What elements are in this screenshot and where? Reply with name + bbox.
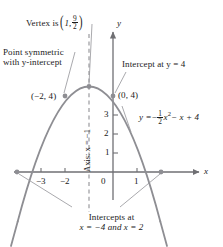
vertex-prefix: Vertex is [26,18,59,28]
equation-fraction: 12 [157,110,163,126]
bottom-caption-line2: x = −4 and x = 2 [0,222,223,232]
vertex-frac-denominator: 2 [72,22,78,30]
symmetric-point-marker [63,94,68,99]
point-symmetric-line2: with y-intercept [3,57,83,67]
equation-sign: − [152,112,157,122]
vertex-paren-open: ( [60,17,64,28]
y-tick-label-3: 3 [104,109,109,119]
y-intercept-marker [111,94,116,99]
parabola-curve [1,87,190,224]
point-symmetric-line1: Point symmetric [3,47,83,57]
x-intercept-left-marker [15,170,20,175]
x-tick-label-0: 0 [101,176,106,186]
point-symmetric-annotation: Point symmetric with y-intercept [3,47,83,67]
y-tick-label-2: 2 [104,128,109,138]
parabola-figure: Vertex is ( 1, 9 2 ) Point symmetric wit… [0,0,223,247]
bottom-caption: Intercepts at x = −4 and x = 2 [0,212,223,232]
vertex-paren-close: ) [79,17,83,28]
point-label-symmetric: (−2, 4) [31,91,56,101]
x-tick-label-1: 1 [134,176,139,186]
x-tick-label--2: −2 [60,176,70,186]
x-axis-label: x [204,166,208,176]
intercept-y-annotation: Intercept at y = 4 [122,59,185,69]
equation-frac-denominator: 2 [157,117,163,125]
leader-intercept-right [120,174,160,207]
y-tick-label-1: 1 [105,147,110,157]
bottom-caption-line1: Intercepts at [0,212,223,222]
vertex-frac-numerator: 9 [72,15,78,22]
equation-lhs: y = [139,112,152,122]
vertex-x-value: 1, [64,18,71,28]
equation-tail: − x + 4 [171,112,199,122]
x-tick-label--3: −3 [36,176,46,186]
axis-of-symmetry-label: Axis: x = −1 [82,129,92,172]
leader-vertex [89,24,92,84]
equation-frac-numerator: 1 [157,110,163,117]
point-label-y-intercept: (0, 4) [118,90,138,100]
equation-annotation: y =−12x2− x + 4 [139,110,199,126]
y-axis-label: y [117,18,121,28]
vertex-marker [87,84,92,89]
vertex-annotation: Vertex is ( 1, 9 2 ) [26,15,84,31]
x-intercept-right-marker [159,170,164,175]
vertex-fraction: 9 2 [72,15,78,31]
